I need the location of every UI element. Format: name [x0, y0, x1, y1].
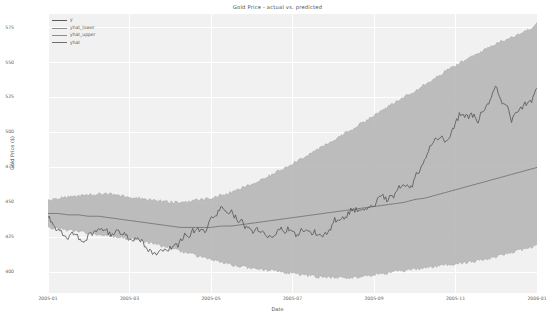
y-tick-label: 500	[0, 130, 14, 135]
y-tick-label: 550	[0, 61, 14, 66]
x-axis-label: Date	[0, 306, 555, 312]
legend-item-yhat[interactable]: yhat	[52, 39, 95, 46]
legend-line-swatch	[52, 42, 67, 43]
legend-item-yhat_lower[interactable]: yhat_lower	[52, 24, 95, 31]
y-tick-label: 475	[0, 165, 14, 170]
x-tick-label: 2005-11	[426, 297, 486, 302]
legend-line-swatch	[52, 35, 67, 36]
y-tick-label: 450	[0, 200, 14, 205]
legend-line-swatch	[52, 28, 67, 29]
x-tick-label: 2005-01	[18, 297, 78, 302]
chart-legend: yyhat_loweryhat_upperyhat	[52, 17, 95, 47]
legend-item-label: yhat	[70, 41, 80, 46]
x-tick-label: 2006-01	[507, 297, 555, 302]
plot-area	[48, 14, 537, 293]
series-lines	[48, 14, 537, 293]
y-tick-label: 525	[0, 95, 14, 100]
x-tick-label: 2005-05	[181, 297, 241, 302]
legend-item-label: yhat_upper	[70, 33, 95, 38]
chart-figure: Gold Price - actual vs. predicted Gold P…	[0, 0, 555, 326]
legend-item-y[interactable]: y	[52, 17, 95, 24]
x-tick-label: 2005-07	[263, 297, 323, 302]
y-tick-label: 575	[0, 26, 14, 31]
x-tick-label: 2005-09	[344, 297, 404, 302]
legend-item-yhat_upper[interactable]: yhat_upper	[52, 32, 95, 39]
y-tick-label: 400	[0, 270, 14, 275]
legend-line-swatch	[52, 20, 67, 21]
legend-item-label: y	[70, 18, 73, 23]
x-tick-label: 2005-03	[100, 297, 160, 302]
y-tick-label: 425	[0, 235, 14, 240]
chart-title: Gold Price - actual vs. predicted	[0, 4, 555, 10]
legend-item-label: yhat_lower	[70, 26, 95, 31]
